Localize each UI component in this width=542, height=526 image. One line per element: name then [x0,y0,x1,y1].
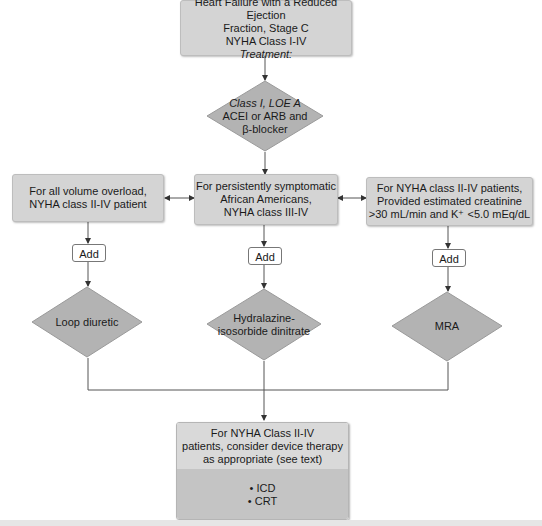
condition-line: >30 mL/min and K⁺ <5.0 mEq/dL [369,208,530,221]
bottom-edge-bar [0,520,542,526]
header-line-3: NYHA Class I-IV [226,35,307,48]
add-box-left: Add [72,244,106,262]
add-box-right: Add [432,249,466,267]
device-therapy-box: For NYHA Class II-IV patients, consider … [176,422,349,520]
device-item-icd: • ICD [250,482,276,495]
device-list: • ICD • CRT [177,469,348,520]
therapy-label: Loop diuretic [56,316,119,329]
condition-line: NYHA class III-IV [224,206,308,219]
therapy-label: isosorbide dinitrate [218,325,310,338]
first-decision-line-1: Class I, LOE A [229,97,301,110]
african-americans-box: For persistently symptomatic African Ame… [194,174,338,225]
loop-diuretic-diamond: Loop diuretic [31,286,143,358]
device-line: as appropriate (see text) [203,453,322,466]
condition-line: Provided estimated creatinine [377,195,522,208]
nyha-mra-condition-box: For NYHA class II-IV patients, Provided … [366,177,533,226]
condition-line: For persistently symptomatic [196,180,336,193]
header-line-4: Treatment: [240,48,292,61]
device-item-crt: • CRT [248,495,277,508]
volume-overload-box: For all volume overload, NYHA class II-I… [12,174,164,222]
header-line-2: Fraction, Stage C [223,22,309,35]
hydralazine-diamond: Hydralazine- isosorbide dinitrate [206,288,322,361]
add-box-middle: Add [248,247,282,265]
condition-line: For all volume overload, [29,185,146,198]
condition-line: African Americans, [220,193,312,206]
header-box: Heart Failure with a Reduced Ejection Fr… [180,0,352,56]
therapy-label: MRA [435,320,459,333]
device-line: patients, consider device therapy [182,440,343,453]
device-line: For NYHA Class II-IV [211,427,314,440]
device-therapy-header: For NYHA Class II-IV patients, consider … [177,423,348,469]
first-decision-line-3: β-blocker [242,123,287,136]
header-line-1: Heart Failure with a Reduced Ejection [181,0,351,22]
condition-line: For NYHA class II-IV patients, [377,182,523,195]
condition-line: NYHA class II-IV patient [29,198,146,211]
mra-diamond: MRA [391,291,503,362]
first-decision-line-2: ACEI or ARB and [223,110,308,123]
therapy-label: Hydralazine- [233,312,295,325]
first-line-therapy-diamond: Class I, LOE A ACEI or ARB and β-blocker [206,80,324,152]
